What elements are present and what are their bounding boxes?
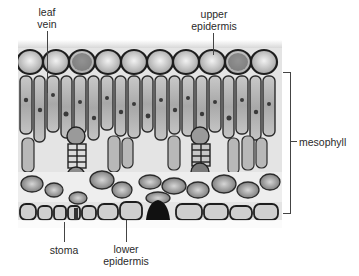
label-lower-epidermis: lower epidermis	[100, 243, 152, 267]
upper-epidermis-leader-line	[213, 33, 214, 55]
lower-epidermis-leader-line	[126, 220, 127, 242]
label-stoma: stoma	[48, 244, 80, 256]
leaf-vein-leader-line	[47, 31, 48, 93]
mesophyll-bracket	[283, 72, 291, 214]
mesophyll-bracket-tick	[291, 141, 297, 142]
leaf-micrograph-image	[18, 40, 282, 228]
stoma-leader-line	[64, 222, 65, 242]
label-upper-epidermis: upper epidermis	[188, 8, 240, 32]
label-leaf-vein: leaf vein	[30, 6, 64, 30]
label-mesophyll: mesophyll	[299, 136, 346, 148]
leaf-cross-section-figure: leaf vein upper epidermis mesophyll stom…	[0, 0, 359, 276]
